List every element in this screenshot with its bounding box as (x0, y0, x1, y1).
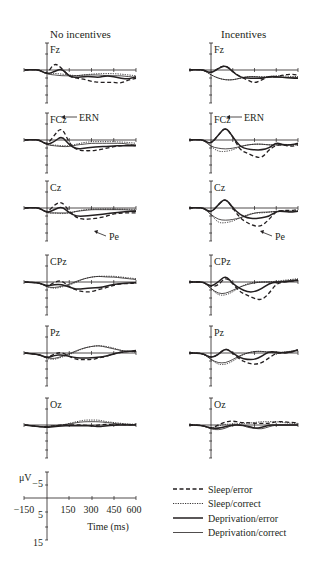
ytick-15: 15 (33, 537, 43, 548)
pe-annotation: Pe (109, 231, 120, 242)
electrode-label: Pz (50, 327, 61, 338)
xtick: 300 (84, 504, 99, 515)
series-sleep-error (189, 66, 298, 82)
panel-pz-no-incentives: Pz (24, 326, 136, 386)
legend-label: Sleep/error (208, 484, 253, 495)
series-deprivation-correct (189, 208, 298, 221)
panel-fcz-no-incentives: FCzERN (24, 112, 136, 174)
series-deprivation-error (189, 66, 298, 78)
series-sleep-error (189, 129, 298, 157)
electrode-label: Oz (50, 399, 62, 410)
series-deprivation-error (189, 200, 298, 218)
xtick: 150 (61, 504, 76, 515)
electrode-label: Cz (50, 182, 62, 193)
x-axis-label: Time (ms) (87, 521, 129, 533)
y-unit-label: μV (19, 472, 32, 483)
series-deprivation-correct (25, 70, 136, 78)
series-sleep-error (25, 65, 136, 83)
series-deprivation-error (25, 351, 136, 358)
electrode-label: Fz (214, 44, 225, 55)
series-deprivation-error (189, 277, 298, 292)
electrode-label: Cz (214, 182, 226, 193)
column-title-no-incentives: No incentives (50, 28, 111, 40)
electrode-label: Pz (214, 327, 225, 338)
pe-annotation: Pe (275, 231, 286, 242)
electrode-label: CPz (50, 256, 67, 267)
electrode-label: Oz (214, 399, 226, 410)
ytick-5: 5 (38, 509, 43, 520)
series-deprivation-error (189, 129, 298, 150)
xtick: −150 (14, 504, 35, 515)
erp-figure: No incentives Incentives FzFzFCzERNFCzER… (0, 0, 318, 570)
legend: Sleep/errorSleep/correctDeprivation/erro… (173, 484, 287, 539)
column-title-incentives: Incentives (221, 28, 266, 40)
panel-oz-incentives: Oz (189, 398, 298, 458)
panel-cz-incentives: CzPe (189, 181, 298, 242)
legend-label: Sleep/correct (208, 498, 261, 509)
panel-cpz-no-incentives: CPz (24, 255, 136, 315)
panel-cz-no-incentives: CzPe (24, 181, 136, 242)
series-sleep-correct (189, 350, 298, 365)
series-sleep-error (189, 200, 298, 226)
panel-cpz-incentives: CPz (189, 255, 298, 315)
electrode-label: Fz (50, 44, 61, 55)
panel-fz-no-incentives: Fz (24, 43, 136, 103)
panel-pz-incentives: Pz (189, 326, 298, 386)
electrode-label: CPz (214, 256, 231, 267)
electrode-label: FCz (214, 114, 231, 125)
panel-fcz-incentives: FCzERN (189, 112, 298, 174)
xtick: 450 (107, 504, 122, 515)
legend-label: Deprivation/error (208, 513, 279, 524)
panel-oz-no-incentives: Oz (24, 398, 136, 458)
series-deprivation-error (25, 207, 136, 216)
series-sleep-error (189, 349, 298, 364)
ytick-neg5: −5 (32, 478, 43, 489)
ern-annotation: ERN (244, 112, 264, 123)
ern-annotation: ERN (79, 112, 99, 123)
panel-fz-incentives: Fz (189, 43, 298, 103)
xtick: 600 (127, 504, 142, 515)
scale-bar: μV−5515−150150300450600Time (ms) (14, 472, 142, 548)
series-deprivation-error (25, 282, 136, 289)
series-sleep-error (25, 281, 136, 292)
legend-label: Deprivation/correct (208, 527, 287, 538)
erp-panels: FzFzFCzERNFCzERNCzPeCzPeCPzCPzPzPzOzOz (24, 43, 298, 458)
